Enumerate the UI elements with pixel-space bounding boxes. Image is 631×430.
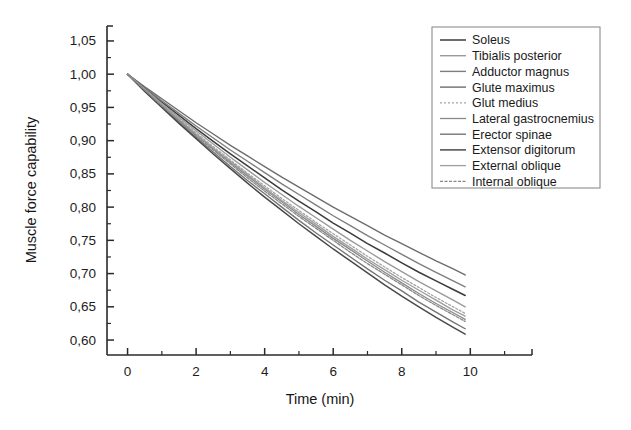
x-axis-title: Time (min) — [286, 391, 355, 407]
y-tick-label: 1,05 — [70, 33, 96, 48]
legend-item-label[interactable]: Extensor digitorum — [472, 143, 575, 157]
chart-canvas: 0,600,650,700,750,800,850,900,951,001,05… — [0, 0, 631, 430]
legend-item-label[interactable]: Lateral gastrocnemius — [472, 112, 594, 126]
x-tick-label: 2 — [192, 364, 200, 379]
y-tick-label: 0,70 — [70, 266, 96, 281]
curves-group — [128, 74, 466, 334]
series-line — [128, 74, 466, 275]
legend-item-label[interactable]: Glute maximus — [472, 81, 555, 95]
legend-item-label[interactable]: Adductor magnus — [472, 65, 569, 79]
y-tick-label: 0,75 — [70, 233, 96, 248]
legend-item-label[interactable]: External oblique — [472, 159, 561, 173]
y-tick-label: 0,60 — [70, 333, 96, 348]
series-line — [128, 74, 466, 307]
y-tick-label: 1,00 — [70, 67, 96, 82]
x-tick-label: 8 — [398, 364, 406, 379]
x-tick-label: 10 — [463, 364, 478, 379]
x-tick-label: 4 — [261, 364, 269, 379]
y-tick-label: 0,95 — [70, 100, 96, 115]
legend-item-label[interactable]: Glut medius — [472, 96, 538, 110]
x-tick-label: 6 — [329, 364, 337, 379]
y-axis-title: Muscle force capability — [23, 116, 39, 263]
series-line — [128, 74, 466, 287]
y-tick-label: 0,80 — [70, 200, 96, 215]
y-tick-label: 0,65 — [70, 299, 96, 314]
legend-item-label[interactable]: Erector spinae — [472, 128, 552, 142]
series-line — [128, 74, 466, 295]
muscle-fatigue-chart: 0,600,650,700,750,800,850,900,951,001,05… — [0, 0, 631, 430]
y-tick-label: 0,85 — [70, 166, 96, 181]
legend-item-label[interactable]: Tibialis posterior — [472, 49, 562, 63]
legend-item-label[interactable]: Soleus — [472, 33, 510, 47]
x-tick-group: 0246810 — [124, 348, 505, 379]
legend-item-label[interactable]: Internal oblique — [472, 175, 557, 189]
x-tick-label: 0 — [124, 364, 132, 379]
chart-legend[interactable]: SoleusTibialis posteriorAdductor magnusG… — [432, 27, 600, 189]
y-tick-label: 0,90 — [70, 133, 96, 148]
